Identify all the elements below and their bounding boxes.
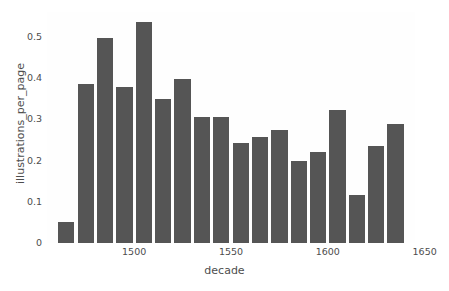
bar-chart: 00.10.20.30.40.5 1500155016001650 illust… [0, 0, 449, 291]
x-tick-label: 1550 [219, 246, 243, 257]
y-axis-title: illustrations_per_page [14, 54, 27, 194]
x-tick-label: 1500 [122, 246, 146, 257]
x-tick-label: 1600 [316, 246, 340, 257]
x-tick-label: 1650 [413, 246, 437, 257]
x-axis: 1500155016001650 [0, 0, 449, 291]
x-axis-title: decade [0, 264, 449, 277]
